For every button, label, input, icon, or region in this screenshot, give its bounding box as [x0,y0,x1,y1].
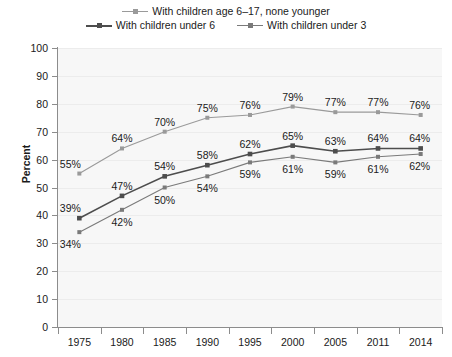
data-label: 65% [273,131,313,142]
y-axis-tick [52,132,57,133]
chart-legend: With children age 6–17, none youngerWith… [0,6,452,31]
data-label: 64% [102,133,142,144]
data-point-marker[interactable] [418,146,423,151]
legend-item-age_6_17[interactable]: With children age 6–17, none younger [122,6,329,17]
data-point-marker[interactable] [120,194,125,199]
legend-row: With children age 6–17, none younger [122,6,329,17]
data-label: 47% [102,181,142,192]
legend-label: With children age 6–17, none younger [152,6,329,17]
y-axis-tick [52,215,57,216]
data-point-marker[interactable] [163,130,167,134]
x-axis-tick [314,328,315,334]
legend-item-under_6[interactable]: With children under 6 [86,20,215,31]
data-point-marker[interactable] [333,110,337,114]
data-point-marker[interactable] [376,155,380,159]
x-axis-tick [442,328,443,334]
data-label: 54% [187,183,227,194]
chart-root: With children age 6–17, none youngerWith… [0,0,452,357]
legend-label: With children under 6 [116,20,215,31]
y-axis-tick-label: 10 [20,294,48,304]
data-label: 39% [50,203,90,214]
legend-item-under_3[interactable]: With children under 3 [237,20,366,31]
data-point-marker[interactable] [248,152,253,157]
data-point-marker[interactable] [333,160,337,164]
x-axis-tick [101,328,102,334]
legend-label: With children under 3 [267,20,366,31]
y-axis-tick-label: 30 [20,238,48,248]
data-label: 70% [145,117,185,128]
y-axis-tick-label: 70 [20,127,48,137]
x-axis-tick [58,328,59,334]
data-point-marker[interactable] [248,113,252,117]
y-axis-tick-label: 0 [20,322,48,332]
square-marker [86,21,112,30]
data-point-marker[interactable] [376,110,380,114]
y-axis-tick [52,48,57,49]
data-label: 54% [145,161,185,172]
data-label: 50% [145,195,185,206]
data-label: 77% [358,97,398,108]
data-label: 64% [400,133,440,144]
data-point-marker[interactable] [205,116,209,120]
x-axis-tick [357,328,358,334]
y-axis-tick-label: 60 [20,155,48,165]
data-point-marker[interactable] [419,152,423,156]
data-point-marker[interactable] [162,174,167,179]
square-marker [122,7,148,16]
y-axis-tick-label: 90 [20,71,48,81]
data-label: 42% [102,217,142,228]
data-label: 62% [400,161,440,172]
data-label: 61% [358,164,398,175]
data-label: 34% [50,239,90,250]
data-label: 75% [187,103,227,114]
data-point-marker[interactable] [120,208,124,212]
y-axis-tick [52,76,57,77]
data-label: 58% [187,150,227,161]
data-label: 64% [358,133,398,144]
y-axis-tick-label: 20 [20,266,48,276]
y-axis-tick [52,271,57,272]
x-axis-tick [229,328,230,334]
data-point-marker[interactable] [205,174,209,178]
data-label: 61% [273,164,313,175]
data-point-marker[interactable] [77,230,81,234]
data-label: 79% [273,92,313,103]
data-label: 59% [230,169,270,180]
y-axis-tick-label: 50 [20,183,48,193]
data-label: 76% [400,100,440,111]
data-point-marker[interactable] [77,216,82,221]
data-point-marker[interactable] [290,143,295,148]
x-axis-tick-label: 2014 [393,337,449,348]
data-label: 76% [230,100,270,111]
data-label: 63% [315,136,355,147]
data-label: 55% [50,159,90,170]
y-axis-tick-label: 80 [20,99,48,109]
data-point-marker[interactable] [120,146,124,150]
data-point-marker[interactable] [77,172,81,176]
x-axis-tick [186,328,187,334]
y-axis-tick [52,299,57,300]
y-axis-tick [52,188,57,189]
y-axis-line [57,47,58,328]
y-axis-tick-label: 40 [20,210,48,220]
data-point-marker[interactable] [163,186,167,190]
data-point-marker[interactable] [205,163,210,168]
square-marker [237,21,263,30]
x-axis-line [57,327,443,328]
data-point-marker[interactable] [291,155,295,159]
data-point-marker[interactable] [333,149,338,154]
x-axis-tick [399,328,400,334]
data-point-marker[interactable] [248,160,252,164]
data-label: 62% [230,139,270,150]
y-axis-tick [52,327,57,328]
x-axis-tick [143,328,144,334]
legend-row: With children under 6With children under… [86,20,366,31]
data-point-marker[interactable] [376,146,381,151]
data-label: 77% [315,97,355,108]
y-axis-tick-label: 100 [20,43,48,53]
y-axis-tick [52,104,57,105]
data-point-marker[interactable] [291,105,295,109]
data-label: 59% [315,169,355,180]
data-point-marker[interactable] [419,113,423,117]
x-axis-tick [271,328,272,334]
